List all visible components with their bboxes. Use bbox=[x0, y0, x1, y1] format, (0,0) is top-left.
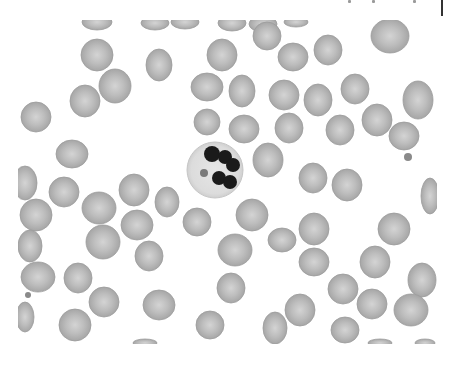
red-blood-cell bbox=[362, 104, 392, 136]
red-blood-cell bbox=[299, 248, 329, 276]
red-blood-cell bbox=[304, 84, 332, 116]
red-blood-cell bbox=[253, 143, 283, 177]
red-blood-cell bbox=[133, 339, 157, 344]
red-blood-cell bbox=[371, 20, 409, 53]
red-blood-cell bbox=[357, 289, 387, 319]
red-blood-cell bbox=[229, 75, 255, 107]
red-blood-cell bbox=[82, 192, 116, 224]
platelet bbox=[404, 153, 412, 161]
red-blood-cell bbox=[278, 43, 308, 71]
red-blood-cell bbox=[299, 163, 327, 193]
red-blood-cell bbox=[82, 20, 112, 30]
red-blood-cell bbox=[191, 73, 223, 101]
red-blood-cell bbox=[229, 115, 259, 143]
screenshot-stage bbox=[0, 0, 455, 365]
red-blood-cell bbox=[207, 39, 237, 71]
neutrophil bbox=[187, 142, 243, 198]
red-blood-cell bbox=[146, 49, 172, 81]
red-blood-cell bbox=[70, 85, 100, 117]
red-blood-cell bbox=[285, 294, 315, 326]
cropped-text-fragment bbox=[348, 0, 351, 3]
red-blood-cell bbox=[331, 317, 359, 343]
red-blood-cell bbox=[121, 210, 153, 240]
red-blood-cell bbox=[49, 177, 79, 207]
red-blood-cell bbox=[408, 263, 436, 297]
red-blood-cell bbox=[20, 199, 52, 231]
red-blood-cell bbox=[196, 311, 224, 339]
red-blood-cell bbox=[183, 208, 211, 236]
red-blood-cell bbox=[171, 20, 199, 29]
red-blood-cell bbox=[21, 262, 55, 292]
red-blood-cell bbox=[368, 339, 392, 344]
red-blood-cell bbox=[421, 178, 437, 214]
red-blood-cell bbox=[119, 174, 149, 206]
nucleus-lobe bbox=[223, 175, 237, 189]
red-blood-cell bbox=[236, 199, 268, 231]
cropped-text-fragment bbox=[413, 0, 416, 3]
red-blood-cell bbox=[141, 20, 169, 30]
edge-mark bbox=[441, 0, 443, 16]
red-blood-cell bbox=[268, 228, 296, 252]
red-blood-cell bbox=[18, 166, 37, 200]
red-blood-cell bbox=[332, 169, 362, 201]
red-blood-cell bbox=[155, 187, 179, 217]
red-blood-cell bbox=[89, 287, 119, 317]
red-blood-cell bbox=[253, 22, 281, 50]
smear-canvas bbox=[18, 20, 437, 344]
red-blood-cell bbox=[394, 294, 428, 326]
blood-smear-micrograph bbox=[18, 20, 437, 344]
red-blood-cell bbox=[263, 312, 287, 344]
red-blood-cell bbox=[284, 20, 308, 27]
red-blood-cell bbox=[389, 122, 419, 150]
red-blood-cell bbox=[99, 69, 131, 103]
red-blood-cell bbox=[194, 109, 220, 135]
red-blood-cell bbox=[275, 113, 303, 143]
red-blood-cell bbox=[299, 213, 329, 245]
red-blood-cell bbox=[314, 35, 342, 65]
cytoplasmic-inclusion bbox=[200, 169, 208, 177]
red-blood-cell bbox=[64, 263, 92, 293]
red-blood-cell bbox=[360, 246, 390, 278]
red-blood-cell bbox=[218, 234, 252, 266]
red-blood-cell bbox=[143, 290, 175, 320]
nucleus-lobe bbox=[204, 146, 220, 162]
red-blood-cell bbox=[326, 115, 354, 145]
red-blood-cell bbox=[378, 213, 410, 245]
red-blood-cell bbox=[81, 39, 113, 71]
red-blood-cell bbox=[59, 309, 91, 341]
red-blood-cell bbox=[415, 339, 435, 344]
red-blood-cell bbox=[328, 274, 358, 304]
cropped-text-fragment bbox=[372, 0, 375, 3]
red-blood-cell bbox=[218, 20, 246, 31]
red-blood-cell bbox=[269, 80, 299, 110]
red-blood-cell bbox=[86, 225, 120, 259]
red-blood-cell bbox=[18, 230, 42, 262]
red-blood-cell bbox=[56, 140, 88, 168]
red-blood-cell bbox=[341, 74, 369, 104]
red-blood-cell bbox=[18, 302, 34, 332]
red-blood-cell bbox=[217, 273, 245, 303]
platelet bbox=[25, 292, 31, 298]
nucleus-lobe bbox=[226, 158, 240, 172]
red-blood-cell bbox=[403, 81, 433, 119]
red-blood-cell bbox=[21, 102, 51, 132]
red-blood-cell bbox=[135, 241, 163, 271]
